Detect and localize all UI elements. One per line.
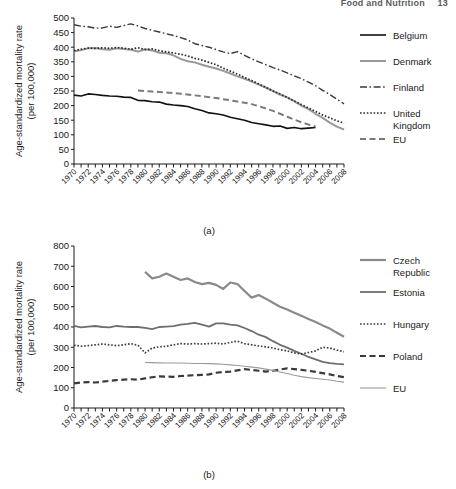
series-group-b (74, 272, 344, 383)
y-tick-label: 150 (53, 115, 69, 126)
y-tick-label: 100 (53, 129, 69, 140)
x-tick-label: 2008 (330, 167, 349, 186)
axes-a (74, 18, 344, 164)
y-tick-label: 700 (53, 261, 69, 272)
y-tick-label: 200 (53, 100, 69, 111)
series-line-hungary (74, 341, 344, 354)
legend-label-belgium: Belgium (393, 30, 427, 41)
x-tick-label: 2008 (330, 411, 349, 430)
y-axis-title-b: Age-standardized mortality rate(per 100,… (13, 261, 36, 393)
legend-label-estonia: Estonia (393, 287, 425, 298)
y-tick-label: 200 (53, 362, 69, 373)
legend-label-poland: Poland (393, 351, 423, 362)
y-tick-label: 250 (53, 85, 69, 96)
y-tick-label: 100 (53, 382, 69, 393)
legend-label-hungary: Hungary (393, 319, 429, 330)
chart-caption-b: (b) (203, 469, 215, 480)
legend-label-eu: EU (393, 134, 406, 145)
legend-label-denmark: Denmark (393, 56, 432, 67)
y-tick-label: 500 (53, 12, 69, 23)
y-tick-label: 400 (53, 321, 69, 332)
y-tick-label: 400 (53, 42, 69, 53)
y-axis-title-line2: (per 100,000) (25, 62, 36, 119)
chart-panel-a: 0501001502002503003504004505001970197219… (0, 12, 456, 240)
legend-label-united-kingdom: Kingdom (393, 120, 431, 131)
y-axis-title-line1: Age-standardized mortality rate (13, 261, 24, 393)
y-tick-label: 0 (64, 402, 69, 413)
x-axis-ticks-a: 1970197219741976197819801982198419861988… (60, 164, 349, 186)
y-tick-label: 800 (53, 240, 69, 251)
y-axis-ticks-b: 0100200300400500600700800 (53, 240, 74, 413)
legend-label-finland: Finland (393, 82, 424, 93)
legend-label-czech-republic: Czech (393, 255, 420, 266)
y-tick-label: 450 (53, 27, 69, 38)
chart-panel-b: 0100200300400500600700800197019721974197… (0, 238, 456, 489)
legend-b: CzechRepublicEstoniaHungaryPolandEU (360, 255, 430, 394)
series-line-finland (74, 24, 344, 104)
legend-label-eu: EU (393, 383, 406, 394)
series-group-a (74, 24, 344, 130)
y-tick-label: 300 (53, 71, 69, 82)
series-line-eu (138, 90, 316, 126)
series-line-denmark (74, 48, 344, 129)
y-tick-label: 300 (53, 342, 69, 353)
chart-svg-b: 0100200300400500600700800197019721974197… (0, 238, 456, 489)
y-axis-title-line1: Age-standardized mortality rate (13, 25, 24, 157)
legend-a: BelgiumDenmarkFinlandUnitedKingdomEU (360, 30, 432, 145)
legend-label-czech-republic: Republic (393, 267, 430, 278)
y-tick-label: 500 (53, 301, 69, 312)
y-tick-label: 0 (64, 158, 69, 169)
y-tick-label: 50 (58, 144, 69, 155)
series-line-czech-republic (145, 272, 344, 337)
chart-caption-a: (a) (203, 225, 215, 236)
legend-label-united-kingdom: United (393, 108, 420, 119)
y-axis-ticks-a: 050100150200250300350400450500 (53, 12, 74, 169)
x-axis-ticks-b: 1970197219741976197819801982198419861988… (60, 408, 349, 430)
y-tick-label: 600 (53, 281, 69, 292)
series-line-united-kingdom (74, 47, 344, 123)
y-axis-title-line2: (per 100,000) (25, 298, 36, 355)
chart-svg-a: 0501001502002503003504004505001970197219… (0, 12, 456, 240)
figure-mortality-trends: 0501001502002503003504004505001970197219… (0, 0, 456, 489)
y-tick-label: 350 (53, 56, 69, 67)
series-line-belgium (74, 94, 316, 129)
y-axis-title-a: Age-standardized mortality rate(per 100,… (13, 25, 36, 157)
series-line-poland (74, 368, 344, 383)
